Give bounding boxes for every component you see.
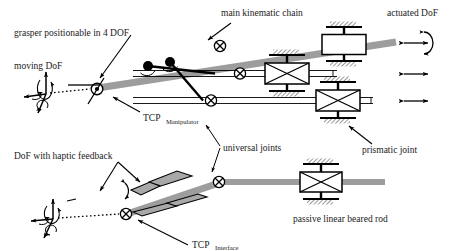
label-grasper: grasper positionable in 4 DOF (14, 28, 129, 38)
plain-box-icon (322, 35, 366, 55)
hatched-ground-icon (273, 50, 299, 55)
hatched-ground-icon (330, 22, 356, 27)
hatched-ground-icon (307, 159, 333, 164)
hatched-ground-icon (324, 119, 350, 124)
label-moving-dof: moving DoF (14, 61, 62, 71)
label-universal-joints: universal joints (223, 143, 282, 153)
kinematic-diagram: grasper positionable in 4 DOF moving DoF… (0, 0, 461, 251)
circle-x-icon (234, 68, 245, 79)
tcp-manipulator-sub: Manipulator (166, 118, 199, 125)
label-actuated-dof: actuated DoF (387, 8, 438, 18)
circle-x-icon (214, 40, 225, 51)
tcp-interface-joint-icon (120, 208, 131, 219)
hatched-ground-icon (307, 200, 333, 205)
tcp-interface-main: TCP (192, 240, 209, 250)
label-haptic-dof: DoF with haptic feedback (14, 151, 113, 161)
label-main-chain: main kinematic chain (221, 8, 303, 18)
filled-circle-icon (165, 57, 175, 67)
circle-x-icon (213, 176, 224, 187)
label-passive-rod: passive linear beared rod (293, 214, 388, 224)
circle-x-icon (205, 95, 216, 106)
hatched-ground-icon (324, 77, 350, 82)
figure-canvas: grasper positionable in 4 DOF moving DoF… (0, 0, 461, 251)
tcp-interface-sub: Interface (215, 244, 238, 251)
hatched-ground-icon (330, 62, 356, 67)
hatched-ground-icon (273, 92, 299, 97)
filled-circle-icon (143, 61, 153, 71)
label-prismatic-joint: prismatic joint (362, 145, 418, 155)
tcp-manipulator-main: TCP (143, 113, 160, 123)
